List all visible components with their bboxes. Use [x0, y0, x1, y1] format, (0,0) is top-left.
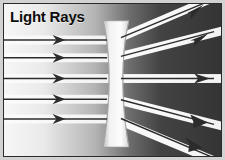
figure-title: Light Rays	[10, 8, 85, 26]
light-rays-figure: Light Rays	[0, 0, 225, 160]
figure-plate: Light Rays	[3, 3, 222, 157]
ray-diagram-svg	[4, 4, 221, 156]
ray-diagram-scene	[4, 4, 221, 156]
